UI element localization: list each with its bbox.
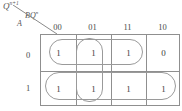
- karnaugh-map: Qn+1 BQn A 00 01 11 10 0 1 1 1 1 0 1 1 1…: [0, 0, 182, 111]
- column-header-00: 00: [40, 22, 75, 32]
- column-header-01: 01: [75, 22, 110, 32]
- row-header-0: 0: [20, 50, 36, 60]
- group-oval-row1: [45, 72, 176, 100]
- row-header-1: 1: [20, 83, 36, 93]
- cell-r0-c3: 0: [146, 35, 181, 71]
- column-header-10: 10: [145, 22, 180, 32]
- column-header-11: 11: [110, 22, 145, 32]
